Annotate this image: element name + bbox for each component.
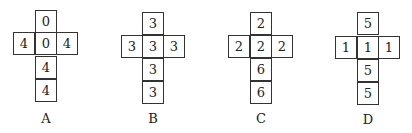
cube-net-a: 0 4 0 4 4 4 A [12, 0, 112, 133]
net-cell-below-2: 5 [357, 82, 379, 105]
net-cell-below-2: 4 [35, 79, 57, 102]
net-cell-center: 3 [142, 35, 164, 58]
net-cell-top: 5 [357, 12, 379, 35]
net-cell-center: 0 [35, 32, 57, 55]
net-label: B [142, 111, 164, 126]
cube-net-c: 2 2 2 2 6 6 C [228, 0, 328, 133]
net-label: A [35, 111, 57, 126]
net-cell-center: 2 [250, 35, 272, 58]
net-label: D [357, 112, 379, 127]
net-cell-below-2: 3 [142, 81, 164, 104]
net-cell-right: 2 [271, 35, 293, 58]
cube-net-d: 5 1 1 1 5 5 D [335, 0, 412, 133]
net-cell-right: 3 [163, 35, 185, 58]
cube-net-b: 3 3 3 3 3 3 B [120, 0, 220, 133]
net-cell-below-1: 4 [35, 56, 57, 79]
net-cell-top: 2 [250, 12, 272, 35]
net-cell-center: 1 [357, 36, 379, 59]
net-cell-below-1: 6 [250, 58, 272, 81]
net-cell-below-1: 3 [142, 58, 164, 81]
net-cell-right: 4 [56, 32, 78, 55]
net-cell-right: 1 [378, 36, 400, 59]
net-cell-below-1: 5 [357, 59, 379, 82]
net-cell-top: 0 [35, 10, 57, 33]
net-cell-below-2: 6 [250, 81, 272, 104]
net-cell-top: 3 [142, 12, 164, 35]
net-cell-left: 1 [335, 36, 357, 59]
net-cell-left: 4 [13, 32, 35, 55]
net-cell-left: 2 [228, 35, 250, 58]
net-cell-left: 3 [121, 35, 143, 58]
net-label: C [250, 111, 272, 126]
